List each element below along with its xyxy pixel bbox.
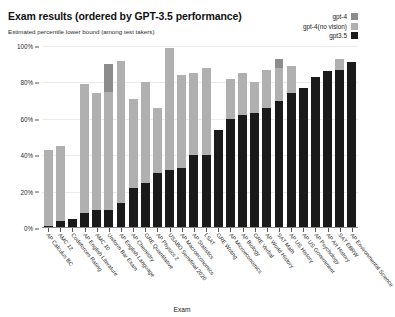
bar-group[interactable] <box>214 46 223 228</box>
bar-group[interactable] <box>92 46 101 228</box>
bar-segment-gpt3-5 <box>129 188 138 228</box>
x-tick-mark <box>243 228 244 232</box>
x-tick-mark <box>72 228 73 232</box>
bar-segment-gpt3-5 <box>141 183 150 229</box>
bar-segment-gpt3-5 <box>262 108 271 228</box>
bar-segment-gpt3-5 <box>117 203 126 228</box>
legend-label: gpt3.5 <box>329 32 347 39</box>
x-tick-mark <box>230 228 231 232</box>
bar-group[interactable] <box>323 46 332 228</box>
x-tick-mark <box>303 228 304 232</box>
bar-group[interactable] <box>287 46 296 228</box>
bar-group[interactable] <box>80 46 89 228</box>
plot-area: 0%20%40%60%80%100% <box>42 46 358 228</box>
bar-group[interactable] <box>44 46 53 228</box>
x-tick-mark <box>328 228 329 232</box>
bar-segment-gpt3-5 <box>153 173 162 228</box>
legend-item-gpt3-5[interactable]: gpt3.5 <box>329 32 358 39</box>
bar-segment-gpt3-5 <box>92 210 101 228</box>
bar-segment-gpt3-5 <box>323 71 332 228</box>
x-tick-mark <box>352 228 353 232</box>
bar-group[interactable] <box>202 46 211 228</box>
bar-group[interactable] <box>238 46 247 228</box>
bar-segment-gpt3-5 <box>250 113 259 228</box>
bar-segment-gpt3-5 <box>104 210 113 228</box>
x-tick-mark <box>157 228 158 232</box>
bar-group[interactable] <box>299 46 308 228</box>
bar-group[interactable] <box>189 46 198 228</box>
bar-group[interactable] <box>262 46 271 228</box>
x-tick-mark <box>145 228 146 232</box>
x-tick-mark <box>291 228 292 232</box>
x-tick-label: AP Environmental Science <box>349 232 394 288</box>
legend-label: gpt-4 <box>332 13 347 20</box>
bar-segment-gpt3-5 <box>311 77 320 228</box>
bar-group[interactable] <box>335 46 344 228</box>
chart-title: Exam results (ordered by GPT-3.5 perform… <box>8 10 242 22</box>
x-tick-mark <box>85 228 86 232</box>
chart-legend: gpt-4gpt-4(no vision)gpt3.5 <box>303 13 358 39</box>
bar-group[interactable] <box>275 46 284 228</box>
bar-segment-gpt3-5 <box>335 70 344 228</box>
y-tick-label: 40% <box>20 152 42 159</box>
legend-item-gpt-4[interactable]: gpt-4 <box>332 13 358 20</box>
x-tick-mark <box>255 228 256 232</box>
bar-segment-gpt3-5 <box>287 93 296 228</box>
bar-segment-gpt3-5 <box>189 155 198 228</box>
x-axis-labels: AP Calculus BCAMC 12Codeforces RatingAP … <box>42 232 358 302</box>
bar-group[interactable] <box>104 46 113 228</box>
legend-label: gpt-4(no vision) <box>303 23 347 30</box>
y-tick-label: 100% <box>17 43 42 50</box>
x-tick-mark <box>121 228 122 232</box>
bar-segment-gpt3-5 <box>347 62 356 228</box>
y-tick-label: 0% <box>24 225 42 232</box>
bar-group[interactable] <box>141 46 150 228</box>
x-tick-mark <box>133 228 134 232</box>
x-tick-mark <box>206 228 207 232</box>
bar-segment-gpt-4-no-vision <box>104 92 113 229</box>
x-tick-mark <box>48 228 49 232</box>
x-tick-mark <box>340 228 341 232</box>
bar-group[interactable] <box>311 46 320 228</box>
bar-group[interactable] <box>165 46 174 228</box>
bar-group[interactable] <box>56 46 65 228</box>
y-tick-label: 20% <box>20 188 42 195</box>
bar-group[interactable] <box>153 46 162 228</box>
bar-segment-gpt3-5 <box>275 101 284 228</box>
bar-group[interactable] <box>129 46 138 228</box>
bar-group[interactable] <box>250 46 259 228</box>
bar-segment-gpt3-5 <box>165 170 174 228</box>
bar-segment-gpt3-5 <box>238 115 247 228</box>
x-tick-mark <box>170 228 171 232</box>
bar-segment-gpt-4-no-vision <box>92 93 101 228</box>
bar-segment-gpt-4-no-vision <box>56 146 65 228</box>
bar-segment-gpt3-5 <box>299 88 308 228</box>
x-tick-mark <box>97 228 98 232</box>
bar-segment-gpt3-5 <box>177 168 186 228</box>
bar-group[interactable] <box>177 46 186 228</box>
bar-segment-gpt-4-no-vision <box>44 150 53 228</box>
legend-item-gpt-4-no-vision-[interactable]: gpt-4(no vision) <box>303 23 358 30</box>
bar-group[interactable] <box>68 46 77 228</box>
x-tick-mark <box>109 228 110 232</box>
y-tick-label: 60% <box>20 115 42 122</box>
x-tick-mark <box>194 228 195 232</box>
legend-swatch-icon <box>351 13 358 20</box>
bar-group[interactable] <box>117 46 126 228</box>
x-axis-title: Exam <box>0 306 364 313</box>
bar-segment-gpt-4-no-vision <box>80 84 89 228</box>
chart-subtitle: Estimated percentile lower bound (among … <box>8 28 155 35</box>
legend-swatch-icon <box>351 23 358 30</box>
x-tick-mark <box>279 228 280 232</box>
bar-group[interactable] <box>226 46 235 228</box>
x-tick-mark <box>315 228 316 232</box>
bar-segment-gpt3-5 <box>202 155 211 228</box>
bar-segment-gpt3-5 <box>214 130 223 228</box>
bar-segment-gpt3-5 <box>226 119 235 228</box>
bar-group[interactable] <box>347 46 356 228</box>
x-tick-mark <box>182 228 183 232</box>
legend-swatch-icon <box>351 32 358 39</box>
bar-segment-gpt3-5 <box>80 213 89 228</box>
x-tick-mark <box>267 228 268 232</box>
